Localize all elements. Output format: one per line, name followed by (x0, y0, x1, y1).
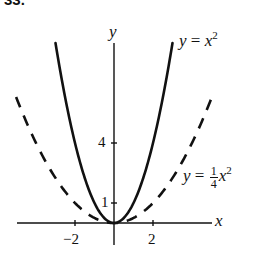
x-tick-label-neg2: −2 (63, 232, 79, 247)
y-tick-label-4: 4 (98, 135, 106, 150)
curve-label-lhs: y (183, 166, 191, 185)
fraction-one-quarter: 14 (210, 165, 218, 190)
y-axis-label: y (109, 23, 117, 40)
plot-area (0, 0, 269, 258)
curve-label-exp: 2 (212, 29, 218, 41)
x-axis-label: x (215, 212, 223, 229)
x-tick-label-2: 2 (148, 232, 156, 247)
curve-label-exp: 2 (226, 164, 232, 176)
curve-label-eq: = (187, 31, 205, 50)
parabola-comparison-figure: 33. y x −2 2 4 1 y = x2 y = 14x2 (0, 0, 269, 258)
curve-label-lhs: y (179, 31, 187, 50)
y-tick-label-1: 1 (101, 195, 109, 210)
curve-label-x-squared: y = x2 (179, 30, 218, 49)
curve-label-eq: = (191, 166, 209, 185)
curve-label-quarter-x-squared: y = 14x2 (183, 165, 232, 190)
